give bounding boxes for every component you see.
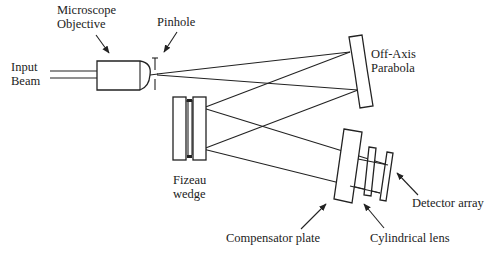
input-beam bbox=[50, 71, 97, 78]
detector-array bbox=[380, 152, 393, 201]
arrow-pinhole bbox=[164, 32, 177, 52]
arrow-detector-array bbox=[397, 173, 418, 195]
label-input-beam: Input bbox=[11, 60, 38, 74]
label-input-beam-2: Beam bbox=[11, 74, 40, 88]
label-detector-array: Detector array bbox=[412, 196, 485, 210]
microscope-objective bbox=[97, 61, 150, 90]
label-compensator-plate: Compensator plate bbox=[226, 231, 321, 245]
fizeau-wedge bbox=[173, 97, 206, 160]
arrow-microscope-objective bbox=[96, 35, 109, 53]
label-fizeau-wedge-2: wedge bbox=[173, 187, 206, 201]
label-off-axis-parabola-2: Parabola bbox=[371, 61, 415, 75]
off-axis-parabola bbox=[349, 35, 373, 108]
arrow-cylindrical-lens bbox=[364, 204, 384, 228]
arrow-compensator-plate bbox=[301, 204, 326, 229]
label-off-axis-parabola: Off-Axis bbox=[371, 47, 416, 61]
label-microscope-objective: Microscope bbox=[57, 3, 116, 17]
label-pinhole: Pinhole bbox=[157, 15, 196, 29]
label-fizeau-wedge: Fizeau bbox=[173, 173, 207, 187]
optical-setup-diagram: Input Beam Microscope Objective Pinhole … bbox=[0, 0, 500, 254]
compensator-plate bbox=[334, 129, 362, 203]
label-microscope-objective-2: Objective bbox=[57, 17, 106, 31]
label-cylindrical-lens: Cylindrical lens bbox=[370, 231, 450, 245]
cylindrical-lens bbox=[364, 147, 376, 196]
